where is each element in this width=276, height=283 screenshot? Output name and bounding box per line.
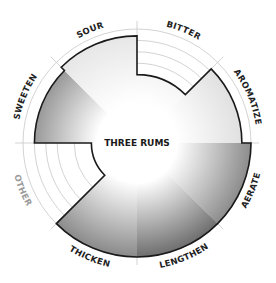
grid-ring xyxy=(57,143,80,199)
radial-chart: BITTERAROMATIZEAERATELENGTHENTHICKENOTHE… xyxy=(0,0,276,283)
grid-ring xyxy=(74,143,92,187)
chart-title: THREE RUMS xyxy=(104,138,170,148)
grid-ring xyxy=(137,40,210,70)
label-sour: SOUR xyxy=(75,20,105,40)
label-sweeten: SWEETEN xyxy=(11,72,39,121)
outer-ring-segment xyxy=(23,143,56,224)
label-other: OTHER xyxy=(12,173,34,208)
grid-ring xyxy=(34,143,64,216)
label-bitter: BITTER xyxy=(165,19,202,42)
outer-ring-segment xyxy=(137,29,218,62)
